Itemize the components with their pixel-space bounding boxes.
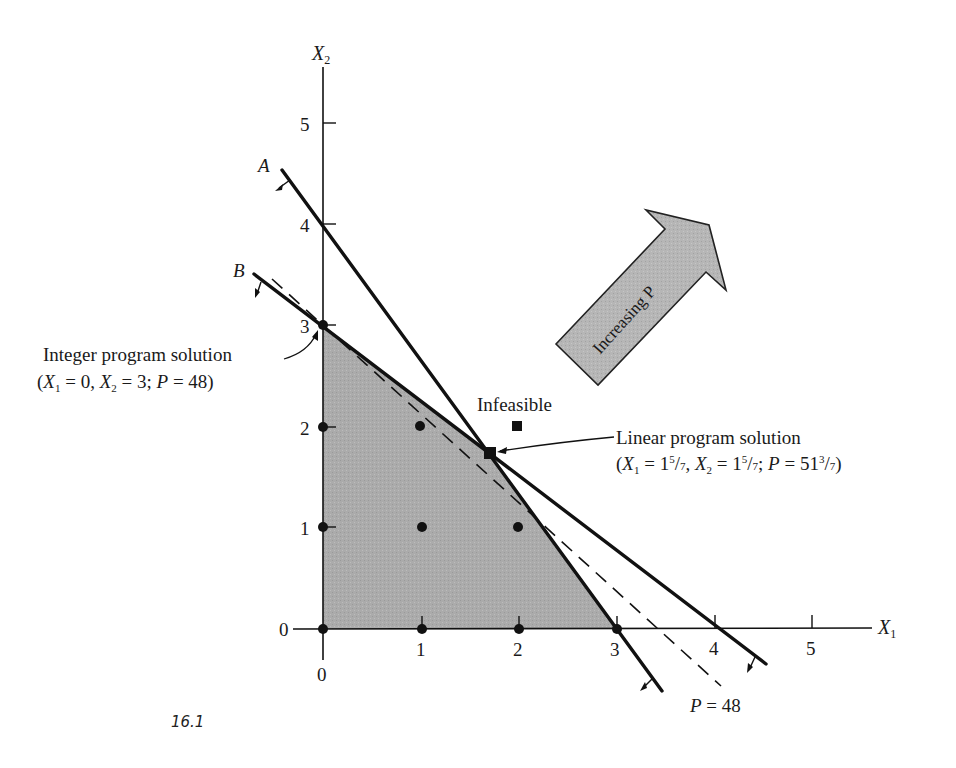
svg-text:(X1 = 0, X2 = 3; P = 48): (X1 = 0, X2 = 3; P = 48) <box>37 371 214 394</box>
lp-solution-annotation: Linear program solution (X1 = 15/7, X2 =… <box>497 427 842 476</box>
infeasible-label: Infeasible <box>477 394 552 415</box>
svg-text:1: 1 <box>416 639 426 660</box>
svg-text:3: 3 <box>300 316 310 337</box>
lp-solution-marker <box>484 447 496 459</box>
svg-text:2: 2 <box>513 639 523 660</box>
svg-text:(X1 = 15/7, X2 = 15/7; P = 513: (X1 = 15/7, X2 = 15/7; P = 513/7) <box>616 453 842 476</box>
constraint-a-label: A <box>256 155 270 176</box>
svg-text:2: 2 <box>300 418 310 439</box>
increasing-p-arrow: Increasing P <box>556 210 726 385</box>
y-tick-labels: 5 4 3 2 1 0 <box>279 114 310 640</box>
integer-programming-chart: 5 4 3 2 1 0 0 1 2 3 4 5 X2 X1 A B <box>0 0 956 768</box>
infeasible-point-marker <box>512 421 522 431</box>
svg-text:Linear program solution: Linear program solution <box>616 427 801 448</box>
svg-text:Integer program solution: Integer program solution <box>43 344 232 365</box>
constraint-b-label: B <box>233 260 245 281</box>
svg-text:1: 1 <box>300 518 310 539</box>
feasible-region <box>323 325 617 629</box>
svg-text:4: 4 <box>300 215 310 236</box>
svg-text:0: 0 <box>317 664 327 685</box>
y-axis-title: X2 <box>311 42 330 67</box>
ip-solution-annotation: Integer program solution (X1 = 0, X2 = 3… <box>37 330 318 394</box>
svg-text:3: 3 <box>610 639 620 660</box>
figure-note: 16.1 <box>171 713 204 731</box>
svg-text:5: 5 <box>806 638 816 659</box>
svg-text:4: 4 <box>709 638 719 659</box>
svg-text:0: 0 <box>279 619 289 640</box>
objective-line-label: P = 48 <box>689 695 741 716</box>
x-axis-title: X1 <box>877 616 896 641</box>
svg-text:5: 5 <box>300 114 310 135</box>
